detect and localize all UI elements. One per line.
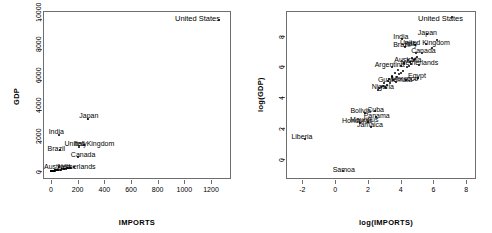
x-tick-mark bbox=[104, 180, 105, 184]
point-label: Japan bbox=[79, 112, 98, 120]
x-tick-mark bbox=[211, 180, 212, 184]
x-tick-label: 1200 bbox=[191, 186, 231, 193]
point-label: Samoa bbox=[333, 166, 355, 174]
x-tick-mark bbox=[184, 180, 185, 184]
x-axis-title-log-imports: log(IMPORTS) bbox=[331, 218, 441, 227]
x-tick-mark bbox=[158, 180, 159, 184]
point-label: Canada bbox=[411, 47, 436, 55]
x-tick-mark bbox=[78, 180, 79, 184]
y-tick-label: 2 bbox=[278, 127, 285, 131]
point-label: Netherlands bbox=[58, 163, 96, 171]
x-tick-mark bbox=[466, 180, 467, 184]
x-axis-title-imports: IMPORTS bbox=[87, 218, 187, 227]
x-tick-mark bbox=[51, 180, 52, 184]
x-tick-mark bbox=[131, 180, 132, 184]
point-label: Canada bbox=[71, 151, 96, 159]
y-axis-title-log-gdp: log(GDP) bbox=[256, 77, 265, 112]
x-tick-mark bbox=[433, 180, 434, 184]
point-label: Liberia bbox=[291, 133, 312, 141]
data-point bbox=[394, 72, 396, 74]
figure-two-panel-scatter: GDP IMPORTS United States 02004006008001… bbox=[0, 0, 492, 233]
panel-log-scale: log(GDP) log(IMPORTS) United States -202… bbox=[246, 0, 492, 233]
plot-area-log bbox=[286, 11, 476, 179]
point-label: Italy bbox=[74, 140, 87, 148]
y-tick-label: 6 bbox=[278, 66, 285, 70]
point-label: Netherlands bbox=[401, 59, 439, 67]
point-label: Jamaica bbox=[357, 121, 383, 129]
y-tick-label: 4000 bbox=[35, 98, 42, 114]
point-label: Brazil bbox=[393, 41, 411, 49]
y-tick-label: 8 bbox=[278, 35, 285, 39]
x-tick-mark bbox=[401, 180, 402, 184]
y-tick-label: 0 bbox=[278, 158, 285, 162]
point-label: Japan bbox=[418, 29, 437, 37]
point-label: Argentina bbox=[375, 61, 405, 69]
annotation-united-states-log: United States bbox=[418, 14, 463, 23]
y-tick-label: 4 bbox=[278, 96, 285, 100]
y-tick-label: 10000 bbox=[35, 2, 42, 21]
x-tick-mark bbox=[302, 180, 303, 184]
y-axis-title-gdp: GDP bbox=[12, 88, 21, 105]
panel-raw-scale: GDP IMPORTS United States 02004006008001… bbox=[0, 0, 246, 233]
annotation-united-states-raw: United States bbox=[175, 14, 220, 23]
y-tick-label: 6000 bbox=[35, 67, 42, 83]
x-tick-label: 8 bbox=[446, 186, 486, 193]
point-label: Brazil bbox=[48, 145, 66, 153]
point-label: Nigeria bbox=[372, 83, 394, 91]
y-tick-label: 2000 bbox=[35, 128, 42, 144]
x-tick-mark bbox=[368, 180, 369, 184]
point-label: India bbox=[49, 128, 64, 136]
y-tick-label: 8000 bbox=[35, 37, 42, 53]
x-tick-mark bbox=[335, 180, 336, 184]
y-tick-label: 0 bbox=[35, 170, 42, 174]
point-label: United Kingdom bbox=[64, 140, 114, 148]
